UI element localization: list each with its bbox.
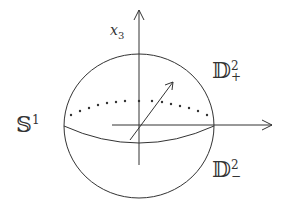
circle-label: 𝕊1 (16, 112, 40, 137)
sphere-diagram (0, 0, 289, 204)
upper-disk-label: 𝔻2+ (212, 58, 241, 83)
lower-disk-label: 𝔻2− (212, 157, 241, 182)
vector-arrow (130, 82, 173, 140)
axis-label: x3 (110, 22, 124, 41)
